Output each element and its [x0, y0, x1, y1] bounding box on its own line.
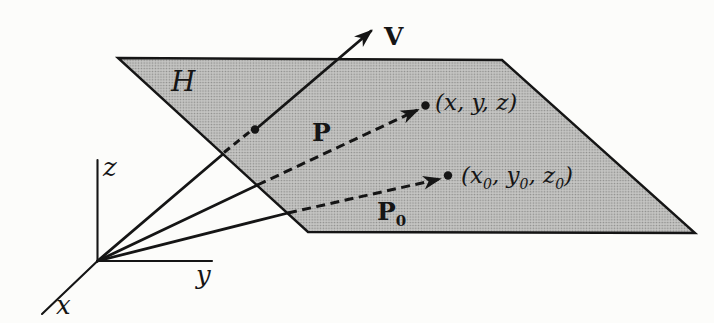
point-xyz-dot	[421, 101, 429, 109]
vector-p0-label-sub: 0	[396, 212, 406, 230]
vector-p-solid-segment	[98, 185, 258, 261]
vector-v-label: V	[383, 22, 404, 51]
point-x0y0z0-dot	[444, 171, 452, 179]
x-axis-label: x	[56, 290, 71, 320]
diagram-canvas: H V P P0 (x, y, z) (x0, y0, z0) z y x	[0, 0, 714, 323]
vector-p0-label-base: P	[377, 197, 396, 226]
point-xyz-label: (x, y, z)	[435, 89, 517, 115]
plane-h-label: H	[170, 65, 196, 98]
plane-surface	[118, 58, 695, 233]
z-axis-label: z	[102, 152, 117, 182]
y-axis-label: y	[195, 260, 211, 290]
plane-vector-diagram: H V P P0 (x, y, z) (x0, y0, z0) z y x	[0, 0, 714, 323]
vector-p-label: P	[312, 118, 331, 147]
